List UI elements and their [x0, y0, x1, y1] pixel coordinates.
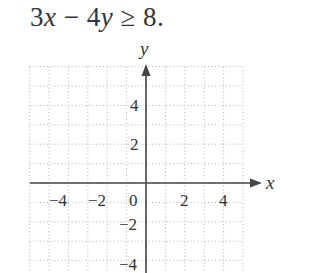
x-axis-label: x: [265, 172, 275, 193]
coordinate-graph: x y −4 −2 0 2 4 4 2 −2 −4: [0, 0, 328, 273]
y-tick-label: −4: [119, 255, 138, 273]
y-tick-label: 4: [130, 96, 139, 115]
x-tick-label: −2: [88, 191, 106, 210]
x-axis-arrow-icon: [250, 179, 262, 188]
y-tick-label: −2: [119, 215, 137, 234]
y-axis-label: y: [138, 38, 149, 59]
y-tick-label: 2: [130, 135, 139, 154]
x-tick-label: 2: [180, 191, 189, 210]
y-axis-arrow-icon: [142, 64, 151, 76]
x-tick-label: −4: [49, 191, 68, 210]
x-tick-label: 0: [129, 191, 138, 210]
x-tick-label: 4: [219, 191, 228, 210]
